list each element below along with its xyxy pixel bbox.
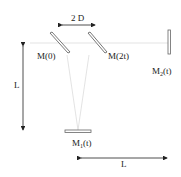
mirror-m2-arg: (t) xyxy=(163,66,172,76)
mirror-m1-base: M xyxy=(72,138,80,148)
diagram-canvas xyxy=(0,0,181,177)
mirror-m2-label: M2(t) xyxy=(152,67,172,77)
mirror-m2-base: M xyxy=(152,66,160,76)
vertical-length-label: L xyxy=(14,81,20,90)
mirror-m1-label: M1(t) xyxy=(72,139,92,149)
mirror-m2t xyxy=(88,32,107,53)
mirror-m1-arg: (t) xyxy=(83,138,92,148)
mirror-m2 xyxy=(168,30,171,54)
mirror-m2t-label: M(2t) xyxy=(108,52,129,61)
mirror-m0 xyxy=(50,32,70,53)
mirror-m1 xyxy=(65,130,91,133)
horizontal-length-label: L xyxy=(121,160,127,169)
separation-label: 2 D xyxy=(71,14,84,23)
mirror-m0-label: M(0) xyxy=(37,52,56,61)
